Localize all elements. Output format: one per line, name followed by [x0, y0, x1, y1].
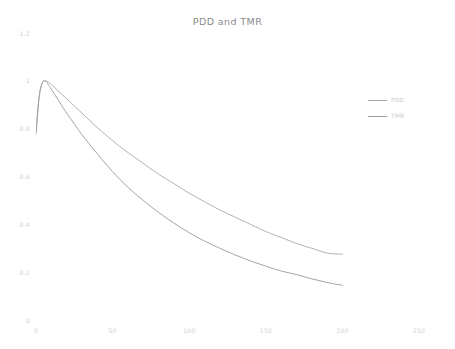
legend-item[interactable]: TMR: [368, 110, 444, 122]
y-tick-label: 0.6: [8, 173, 30, 180]
legend-item[interactable]: PDD: [368, 94, 444, 106]
y-tick-label: 0.8: [8, 125, 30, 132]
chart-figure: PDD and TMR 00.20.40.60.811.2 0501001502…: [0, 0, 455, 349]
chart-legend: PDDTMR: [368, 94, 444, 126]
series-line-pdd: [36, 81, 342, 254]
y-tick-label: 0.4: [8, 221, 30, 228]
x-tick-label: 50: [100, 327, 126, 334]
legend-label: TMR: [391, 113, 404, 119]
y-tick-label: 0.2: [8, 269, 30, 276]
x-tick-label: 0: [23, 327, 49, 334]
x-tick-label: 200: [329, 327, 355, 334]
legend-label: PDD: [391, 97, 404, 103]
y-tick-label: 1.2: [8, 30, 30, 37]
y-tick-label: 0: [8, 317, 30, 324]
plot-area: [36, 33, 419, 320]
chart-title: PDD and TMR: [0, 16, 455, 27]
series-line-tmr: [36, 81, 342, 286]
y-tick-label: 1: [8, 77, 30, 84]
x-tick-label: 150: [253, 327, 279, 334]
x-tick-label: 250: [406, 327, 432, 334]
x-tick-label: 100: [176, 327, 202, 334]
legend-line-swatch: [368, 116, 387, 117]
legend-line-swatch: [368, 100, 387, 101]
plot-lines: [36, 33, 419, 320]
